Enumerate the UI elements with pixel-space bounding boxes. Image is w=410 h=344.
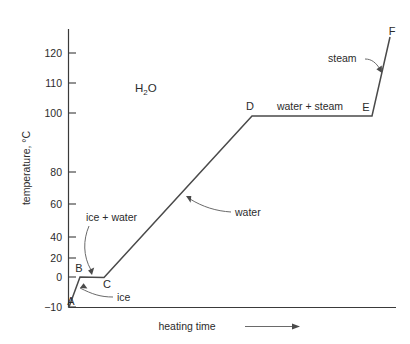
annotation-steam: steam bbox=[328, 52, 382, 73]
heating-curve-plot: 120 110 100 80 60 40 20 0 −10 temperatur… bbox=[0, 0, 410, 344]
point-label-B: B bbox=[75, 262, 82, 274]
y-tick-label-60: 60 bbox=[50, 198, 62, 210]
annotation-ice-water: ice + water bbox=[85, 211, 138, 275]
annotation-ice-label: ice bbox=[117, 291, 131, 303]
annotation-water: water bbox=[186, 196, 261, 218]
heating-curve-figure: 120 110 100 80 60 40 20 0 −10 temperatur… bbox=[0, 0, 410, 344]
h2o-o: O bbox=[148, 82, 157, 94]
point-label-C: C bbox=[103, 278, 111, 290]
x-axis-title: heating time bbox=[158, 320, 215, 332]
annotation-water-label: water bbox=[234, 206, 261, 218]
annotation-steam-label: steam bbox=[328, 52, 357, 64]
y-tick-label-80: 80 bbox=[50, 166, 62, 178]
point-label-A: A bbox=[67, 295, 75, 307]
y-tick-label-minus-10: −10 bbox=[44, 301, 62, 313]
annotation-steam-leader bbox=[365, 59, 380, 69]
heating-curve-line bbox=[69, 37, 390, 307]
h2o-formula: H2O bbox=[135, 82, 157, 97]
annotation-water-leader bbox=[190, 199, 231, 212]
y-tick-label-100: 100 bbox=[44, 107, 62, 119]
annotation-ice-water-label: ice + water bbox=[86, 211, 138, 223]
y-tick-label-20: 20 bbox=[50, 252, 62, 264]
annotation-ice-water-leader bbox=[85, 226, 91, 270]
y-tick-label-110: 110 bbox=[45, 77, 62, 89]
annotation-steam-arrowhead bbox=[376, 66, 382, 73]
annotation-water-steam-label: water + steam bbox=[276, 100, 343, 112]
y-tick-label-120: 120 bbox=[44, 47, 62, 59]
y-tick-label-40: 40 bbox=[50, 231, 62, 243]
y-tick-label-0: 0 bbox=[56, 271, 62, 283]
point-label-E: E bbox=[362, 101, 369, 113]
y-axis-title: temperature, °C bbox=[20, 130, 32, 205]
x-axis-arrow-head bbox=[292, 324, 300, 330]
x-axis-title-group: heating time bbox=[158, 320, 300, 332]
annotation-water-arrowhead bbox=[186, 196, 191, 203]
point-label-D: D bbox=[246, 100, 254, 112]
point-label-F: F bbox=[389, 25, 396, 37]
axis-group bbox=[69, 29, 397, 308]
h2o-h: H bbox=[135, 82, 143, 94]
annotation-ice-arrowhead bbox=[80, 283, 87, 288]
y-axis-tick-labels: 120 110 100 80 60 40 20 0 −10 bbox=[44, 47, 62, 313]
annotation-ice-water-arrowhead bbox=[88, 268, 94, 275]
